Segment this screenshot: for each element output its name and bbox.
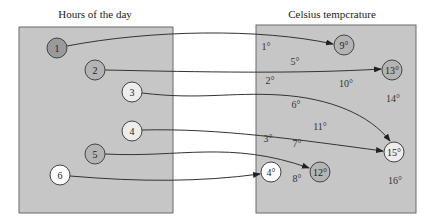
- hour-label: 2: [93, 65, 98, 76]
- temp-node-15: 15°: [384, 142, 404, 162]
- hour-node-6: 6: [50, 165, 70, 185]
- value-label: 8°: [293, 173, 302, 184]
- hour-label: 3: [130, 87, 135, 98]
- hour-label: 6: [58, 170, 63, 181]
- temp-label: 13°: [385, 65, 399, 76]
- value-label: 11°: [313, 121, 327, 132]
- left-panel-title: Hours of the day: [58, 8, 132, 20]
- temp-node-13: 13°: [382, 60, 402, 80]
- function-mapping-diagram: Hours of the day Celsius tempcrature 1° …: [0, 0, 432, 224]
- value-label: 6°: [292, 99, 301, 110]
- hour-label: 4: [130, 126, 135, 137]
- temp-label: 9°: [340, 40, 349, 51]
- value-label: 3°: [264, 133, 273, 144]
- value-label: 5°: [291, 56, 300, 67]
- hour-node-4: 4: [122, 121, 142, 141]
- value-label: 14°: [386, 93, 400, 104]
- left-panel-domain-box: [19, 27, 173, 213]
- temp-node-12: 12°: [310, 162, 330, 182]
- temp-label: 15°: [387, 147, 401, 158]
- hour-node-3: 3: [122, 82, 142, 102]
- hour-node-1: 1: [47, 38, 67, 58]
- hour-node-5: 5: [85, 144, 105, 164]
- value-label: 2°: [266, 75, 275, 86]
- value-label: 16°: [388, 175, 402, 186]
- temp-node-9: 9°: [334, 35, 354, 55]
- temp-label: 12°: [313, 167, 327, 178]
- value-label: 10°: [339, 78, 353, 89]
- value-label: 1°: [262, 41, 271, 52]
- temp-node-4: 4°: [261, 162, 281, 182]
- hour-label: 1: [55, 43, 60, 54]
- hour-label: 5: [93, 149, 98, 160]
- temp-label: 4°: [267, 167, 276, 178]
- right-panel-title: Celsius tempcrature: [288, 8, 376, 20]
- hour-node-2: 2: [85, 60, 105, 80]
